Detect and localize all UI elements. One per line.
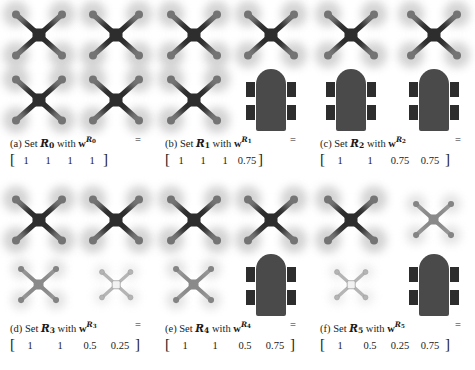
rotor-wash — [444, 1, 470, 27]
rotor-wash — [441, 194, 461, 214]
close-bracket: ] — [135, 338, 140, 350]
quadrotor-icon — [8, 73, 70, 127]
weight-value: 1 — [214, 153, 236, 168]
rotor-wash — [122, 264, 138, 280]
rotor-wash — [281, 227, 307, 253]
rotor-wash — [3, 66, 29, 92]
rotor-wash — [329, 289, 345, 305]
robot-slot — [3, 3, 75, 67]
close-bracket: ] — [445, 338, 450, 350]
vehicle-wheel — [326, 82, 335, 97]
set-subscript: 2 — [359, 141, 364, 150]
rotor-wash — [126, 227, 152, 253]
robot-slot — [3, 68, 75, 132]
weight-value: 1 — [170, 338, 200, 353]
weight-vector-values: [110.750.75] — [320, 153, 471, 168]
subfigure-panel-d: (d) Set R3 with wR3=[110.50.25] — [0, 185, 155, 370]
rotor-wash — [281, 186, 307, 212]
quadrotor-icon — [320, 8, 382, 62]
with-word: with — [367, 138, 386, 149]
weight-value: 0.75 — [385, 153, 415, 168]
rotor-wash — [46, 259, 66, 279]
quadrotor-icon — [163, 73, 225, 127]
vehicle-body — [256, 69, 286, 131]
robot-slot — [398, 188, 470, 252]
vehicle-body — [336, 69, 366, 131]
vehicle-wheel — [450, 267, 459, 282]
quadrotor-icon — [8, 8, 70, 62]
set-word: Set — [25, 323, 38, 334]
weight-value: 0.25 — [385, 338, 415, 353]
rotor-wash — [166, 259, 186, 279]
equals-sign: = — [290, 132, 296, 153]
robot-slot — [3, 188, 75, 252]
quadrotor-icon — [8, 193, 70, 247]
set-subscript: 4 — [204, 326, 209, 335]
robot-slot — [398, 68, 470, 132]
subfigure-panel-f: (f) Set R5 with wR5=[10.50.250.75] — [310, 185, 475, 370]
set-symbol: R5 — [349, 322, 363, 334]
rotor-wash — [398, 1, 424, 27]
rotor-wash — [281, 1, 307, 27]
quadrotor-icon — [403, 8, 465, 62]
set-subscript: 1 — [205, 141, 210, 150]
weight-value: 1 — [59, 153, 81, 168]
rotor-wash — [201, 259, 221, 279]
vehicle-wheel — [246, 290, 255, 305]
robot-slot — [398, 3, 470, 67]
rotor-wash — [49, 107, 75, 133]
rotor-wash — [80, 107, 106, 133]
rotor-wash — [361, 186, 387, 212]
robot-slot — [158, 188, 230, 252]
rotor-wash — [166, 290, 186, 310]
weight-superscript-set: R4 — [241, 320, 251, 329]
rotor-wash — [126, 1, 152, 27]
rotor-wash — [398, 42, 424, 68]
set-word: Set — [334, 138, 347, 149]
vehicle-body — [419, 254, 449, 316]
robot-grid — [0, 185, 155, 317]
robot-slot — [235, 253, 307, 317]
robot-slot — [398, 253, 470, 317]
robot-slot — [235, 188, 307, 252]
ground-vehicle-icon — [325, 69, 377, 131]
weight-value: 1 — [325, 153, 355, 168]
equals-sign: = — [455, 317, 461, 338]
robot-slot — [235, 68, 307, 132]
rotor-wash — [204, 186, 230, 212]
quadrotor-icon — [332, 268, 370, 301]
vehicle-body — [419, 69, 449, 131]
rotor-wash — [94, 264, 110, 280]
rotor-wash — [158, 1, 184, 27]
set-word: Set — [180, 138, 193, 149]
rotor-wash — [80, 227, 106, 253]
rotor-wash — [235, 227, 261, 253]
robot-slot — [80, 253, 152, 317]
vehicle-wheel — [326, 105, 335, 120]
panel-tag: (d) — [10, 323, 22, 334]
weight-value: 0.75 — [415, 153, 445, 168]
equals-sign: = — [455, 132, 461, 153]
vehicle-wheel — [450, 290, 459, 305]
close-bracket: ] — [258, 153, 263, 165]
rotor-wash — [158, 107, 184, 133]
vehicle-wheel — [287, 105, 296, 120]
vehicle-wheel — [409, 82, 418, 97]
panel-tag: (c) — [320, 138, 332, 149]
rotor-wash — [315, 227, 341, 253]
robot-grid — [155, 0, 310, 132]
quadrotor-icon — [97, 268, 135, 301]
rotor-wash — [126, 42, 152, 68]
rotor-wash — [122, 289, 138, 305]
quadrotor-icon — [85, 8, 147, 62]
rotor-wash — [158, 227, 184, 253]
set-subscript: 5 — [358, 326, 363, 335]
weight-value: 1 — [355, 153, 385, 168]
robot-grid — [0, 0, 155, 132]
weight-vector-symbol: wR5 — [387, 323, 405, 334]
robot-slot — [315, 3, 387, 67]
robot-slot — [235, 3, 307, 67]
weight-value: 0.5 — [75, 338, 105, 353]
robot-slot — [315, 68, 387, 132]
set-symbol: R4 — [195, 322, 209, 334]
